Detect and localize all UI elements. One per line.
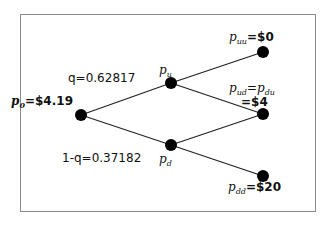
- edge-p0-pd: [81, 115, 171, 145]
- label-pdd: pdd=$20: [228, 180, 281, 199]
- label-up-probability: q=0.62817: [68, 71, 135, 85]
- label-pud-value: =$4: [241, 95, 268, 109]
- label-pd: pd: [159, 152, 172, 171]
- edge-p0-pu: [81, 83, 171, 115]
- label-puu: puu=$0: [229, 30, 274, 49]
- edge-pd-pdd: [171, 145, 263, 176]
- edge-pd-pud: [171, 114, 263, 145]
- edge-pu-puu: [171, 52, 263, 83]
- node-p0: [75, 109, 87, 121]
- node-pd: [165, 139, 177, 151]
- node-pud: [257, 108, 269, 120]
- binomial-tree: [0, 0, 334, 235]
- label-p0: p0=$4.19: [11, 94, 73, 112]
- label-down-probability: 1-q=0.37182: [62, 151, 141, 165]
- label-pu: pu: [159, 63, 172, 82]
